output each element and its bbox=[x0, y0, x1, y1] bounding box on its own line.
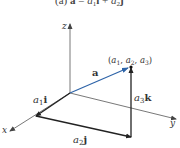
a3k-label: a3k bbox=[134, 92, 152, 105]
y-axis bbox=[70, 93, 176, 119]
vector-a-arrow bbox=[70, 68, 128, 93]
a2j-label: a2j bbox=[73, 134, 87, 147]
vector-components-diagram: (a) a = a1i + a2j z y x a (a1, a2, a3) a… bbox=[0, 0, 180, 148]
point-label: (a1, a2, a3) bbox=[108, 55, 152, 66]
x-axis-label: x bbox=[2, 125, 7, 135]
diagram-canvas: (a) a = a1i + a2j z y x a (a1, a2, a3) a… bbox=[0, 0, 180, 148]
caption: (a) a = a1i + a2j bbox=[55, 0, 124, 8]
a1i-label: a1i bbox=[33, 94, 47, 107]
point-dot bbox=[129, 65, 132, 68]
y-axis-label: y bbox=[169, 118, 176, 128]
z-axis-label: z bbox=[61, 21, 67, 31]
vector-a-label: a bbox=[92, 67, 99, 78]
